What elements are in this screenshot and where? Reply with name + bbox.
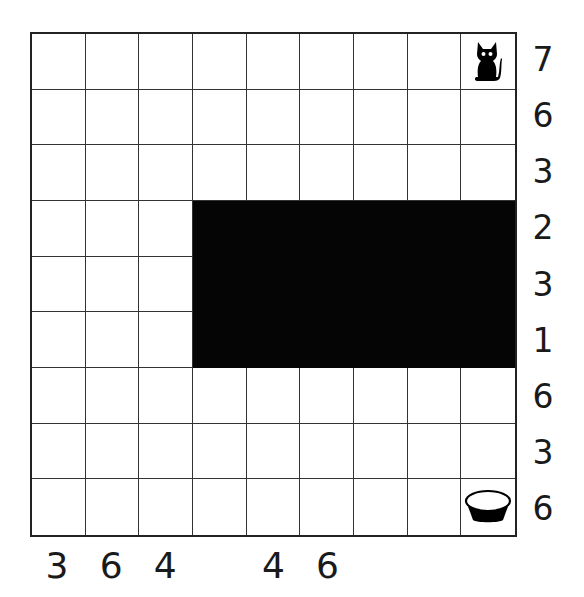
grid-cell-filled — [247, 312, 301, 368]
grid-cell-filled — [354, 312, 408, 368]
column-clue: 3 — [30, 548, 84, 584]
grid-cell-filled — [408, 312, 462, 368]
row-clue: 6 — [528, 492, 558, 525]
grid-cell[interactable] — [300, 424, 354, 480]
grid-cell[interactable] — [461, 90, 515, 146]
row-clue: 3 — [528, 155, 558, 188]
grid-cell[interactable] — [461, 145, 515, 201]
grid-cell[interactable] — [32, 257, 86, 313]
grid-cell[interactable] — [461, 34, 515, 90]
grid-cell[interactable] — [408, 145, 462, 201]
grid-cell[interactable] — [193, 90, 247, 146]
grid-cell[interactable] — [86, 90, 140, 146]
grid-cell-filled — [408, 257, 462, 313]
puzzle-grid — [30, 32, 517, 537]
grid-cell[interactable] — [86, 145, 140, 201]
grid-cell[interactable] — [354, 34, 408, 90]
grid-cell[interactable] — [139, 201, 193, 257]
grid-cell[interactable] — [247, 479, 301, 535]
grid-cell[interactable] — [408, 424, 462, 480]
grid-cell[interactable] — [354, 424, 408, 480]
grid-cell[interactable] — [247, 368, 301, 424]
grid-cell[interactable] — [247, 145, 301, 201]
grid-cell-filled — [408, 201, 462, 257]
grid-cell[interactable] — [32, 34, 86, 90]
grid-cell[interactable] — [86, 312, 140, 368]
column-clue: 4 — [138, 548, 192, 584]
grid-cell-filled — [193, 312, 247, 368]
grid-cell[interactable] — [86, 257, 140, 313]
grid-cell[interactable] — [32, 312, 86, 368]
column-clue: 4 — [246, 548, 300, 584]
bowl-icon — [464, 489, 512, 525]
grid-cell[interactable] — [139, 257, 193, 313]
row-clue: 3 — [528, 268, 558, 301]
grid-cell-filled — [300, 312, 354, 368]
grid-cell-filled — [300, 201, 354, 257]
grid-cell[interactable] — [139, 90, 193, 146]
grid-cell[interactable] — [300, 34, 354, 90]
grid-cell[interactable] — [408, 479, 462, 535]
grid-cell[interactable] — [461, 479, 515, 535]
row-clue: 3 — [528, 436, 558, 469]
grid-cell[interactable] — [86, 424, 140, 480]
grid-cell-filled — [354, 201, 408, 257]
grid-cell-filled — [461, 257, 515, 313]
grid-cell[interactable] — [408, 34, 462, 90]
grid-cell[interactable] — [354, 479, 408, 535]
grid-cell[interactable] — [139, 424, 193, 480]
grid-cell[interactable] — [354, 90, 408, 146]
grid-cell[interactable] — [32, 424, 86, 480]
grid-cell[interactable] — [86, 368, 140, 424]
grid-cell-filled — [461, 201, 515, 257]
row-clue: 2 — [528, 211, 558, 244]
grid-cell[interactable] — [193, 368, 247, 424]
grid-cell[interactable] — [354, 368, 408, 424]
grid-cell-filled — [461, 312, 515, 368]
row-clue: 6 — [528, 99, 558, 132]
cat-icon — [472, 40, 504, 82]
column-clue: 6 — [301, 548, 355, 584]
grid-cell[interactable] — [139, 312, 193, 368]
grid-cell[interactable] — [139, 145, 193, 201]
grid-cell[interactable] — [461, 368, 515, 424]
grid-cell[interactable] — [247, 34, 301, 90]
grid-cell[interactable] — [408, 90, 462, 146]
grid-cell[interactable] — [193, 145, 247, 201]
grid-cell[interactable] — [354, 145, 408, 201]
grid-cell[interactable] — [86, 201, 140, 257]
grid-cell-filled — [247, 257, 301, 313]
grid-cell[interactable] — [139, 368, 193, 424]
grid-cell[interactable] — [300, 479, 354, 535]
grid-cell-filled — [354, 257, 408, 313]
grid-cell[interactable] — [247, 424, 301, 480]
grid-cell[interactable] — [32, 90, 86, 146]
grid-cell-filled — [247, 201, 301, 257]
grid-cell[interactable] — [139, 34, 193, 90]
grid-cell-filled — [193, 257, 247, 313]
row-clue: 6 — [528, 380, 558, 413]
row-clue: 7 — [528, 43, 558, 76]
grid-cell[interactable] — [193, 479, 247, 535]
grid-cell[interactable] — [32, 368, 86, 424]
grid-cell[interactable] — [32, 201, 86, 257]
grid-cell[interactable] — [86, 479, 140, 535]
grid-cell[interactable] — [32, 145, 86, 201]
grid-cell[interactable] — [32, 479, 86, 535]
grid-cell[interactable] — [300, 90, 354, 146]
column-clue: 6 — [84, 548, 138, 584]
grid-cell[interactable] — [86, 34, 140, 90]
grid-cell[interactable] — [408, 368, 462, 424]
grid-cell[interactable] — [193, 424, 247, 480]
grid-cell[interactable] — [139, 479, 193, 535]
grid-cell[interactable] — [193, 34, 247, 90]
grid-cell[interactable] — [300, 145, 354, 201]
grid-cell-filled — [300, 257, 354, 313]
row-clue: 1 — [528, 324, 558, 357]
grid-cell-filled — [193, 201, 247, 257]
grid-cell[interactable] — [461, 424, 515, 480]
grid-cell[interactable] — [300, 368, 354, 424]
grid-cell[interactable] — [247, 90, 301, 146]
